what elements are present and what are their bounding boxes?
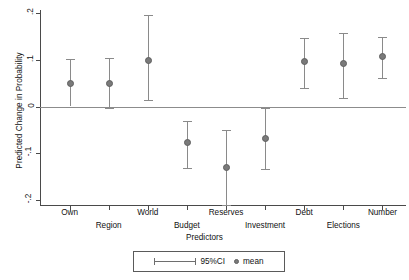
y-axis-line [40,10,41,206]
y-tick-label: -.1 [24,147,34,156]
legend-label-ci: 95%CI [200,257,225,266]
y-tick [36,60,40,61]
ci-upper-cap [144,15,153,16]
ci-upper-cap [378,37,387,38]
ci-lower-cap [222,205,231,206]
mean-marker [67,80,74,87]
x-tick [343,205,344,210]
y-tick-label: -.2 [24,194,34,203]
legend-item-mean: mean [234,257,263,266]
ci-lower-cap [183,168,192,169]
ci-lower-cap [261,169,270,170]
ci-upper-cap [105,58,114,59]
plot-area: .2.10-.1-.2 [40,10,406,206]
error-bar-chart: Predicted Change in Probability .2.10-.1… [0,0,409,280]
ci-lower-cap [378,78,387,79]
legend-item-ci: 95%CI [154,257,225,266]
x-axis-title: Predictors [0,233,409,242]
x-tick-label-reserves: Reserves [209,208,244,217]
y-tick [36,200,40,201]
ci-upper-cap [300,38,309,39]
mean-marker [379,53,386,60]
ci-upper-cap [261,108,270,109]
ci-lower-cap [105,108,114,109]
x-tick-label-investment: Investment [245,221,285,230]
ci-upper-cap [339,33,348,34]
x-tick [265,205,266,210]
x-tick-label-region: Region [96,221,122,230]
x-tick [187,205,188,210]
ci-lower-cap [300,88,309,89]
y-tick-label: .1 [27,54,34,63]
mean-marker [340,60,347,67]
legend-label-mean: mean [243,257,263,266]
errorbar-icon [154,257,196,266]
x-tick-label-number: Number [368,208,397,217]
x-tick-label-elections: Elections [327,221,360,230]
ci-upper-cap [222,130,231,131]
y-axis-title: Predicted Change in Probability [15,16,24,206]
mean-marker [106,80,113,87]
y-tick [36,13,40,14]
y-tick [36,107,40,108]
ci-lower-cap [144,100,153,101]
x-tick-label-world: World [137,208,158,217]
x-tick-label-budget: Budget [174,221,200,230]
ci-lower-cap [339,98,348,99]
dot-marker-icon [234,259,239,264]
ci-lower-cap [66,107,75,108]
x-tick-label-debt: Debt [296,208,313,217]
mean-marker [301,58,308,65]
zero-reference-line [40,107,406,108]
mean-marker [223,164,230,171]
mean-marker [145,57,152,64]
mean-marker [262,135,269,142]
y-tick-label: .2 [27,7,34,16]
mean-marker [184,139,191,146]
y-tick-label: 0 [29,101,34,110]
chart-legend: 95%CI mean [133,251,285,272]
x-tick-label-own: Own [61,208,78,217]
y-tick [36,153,40,154]
ci-upper-cap [183,121,192,122]
ci-upper-cap [66,59,75,60]
x-tick [109,205,110,210]
